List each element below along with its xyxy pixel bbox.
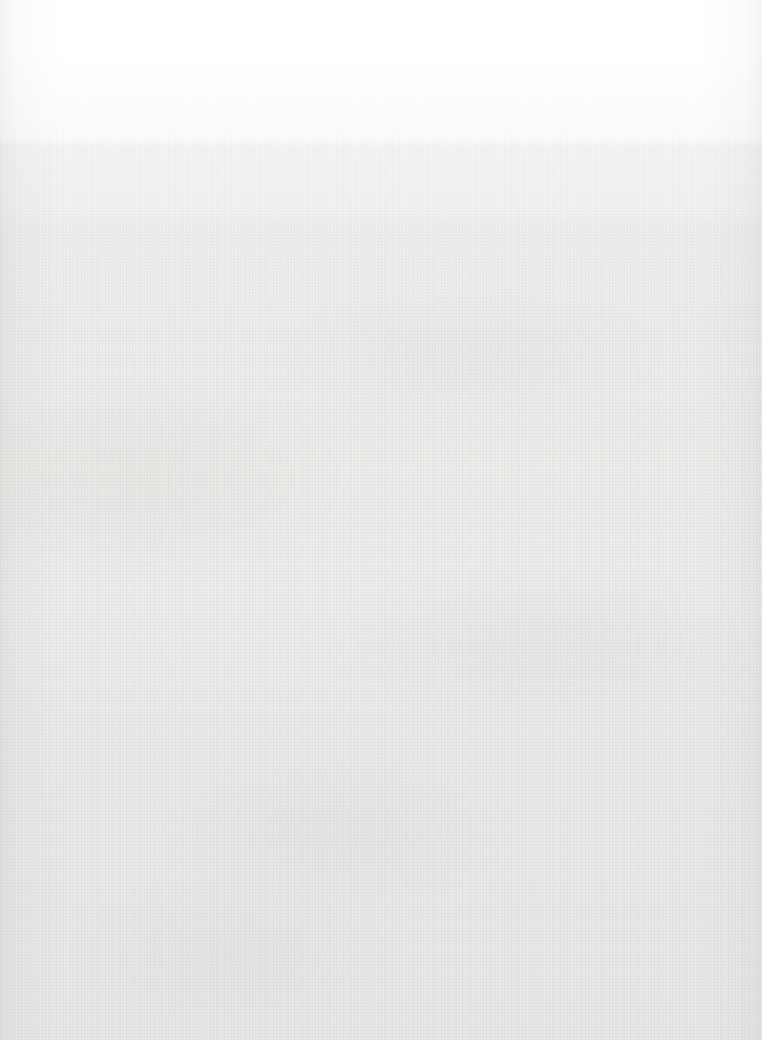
page-content-area — [0, 0, 762, 1040]
blank-page-canvas — [0, 0, 762, 1040]
